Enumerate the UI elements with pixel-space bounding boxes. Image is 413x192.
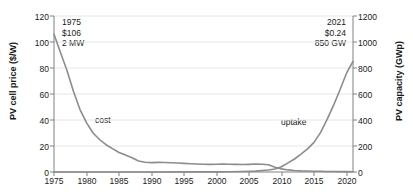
pv-cost-capacity-chart: PV cell price ($/W) PV capacity (GWp) 12… — [0, 0, 413, 192]
data-series — [54, 34, 353, 172]
gridlines — [54, 16, 353, 146]
series-path-uptake — [54, 62, 353, 173]
series-path-cost — [54, 34, 353, 171]
plot-canvas — [0, 0, 413, 192]
axis-ticks — [50, 16, 357, 176]
